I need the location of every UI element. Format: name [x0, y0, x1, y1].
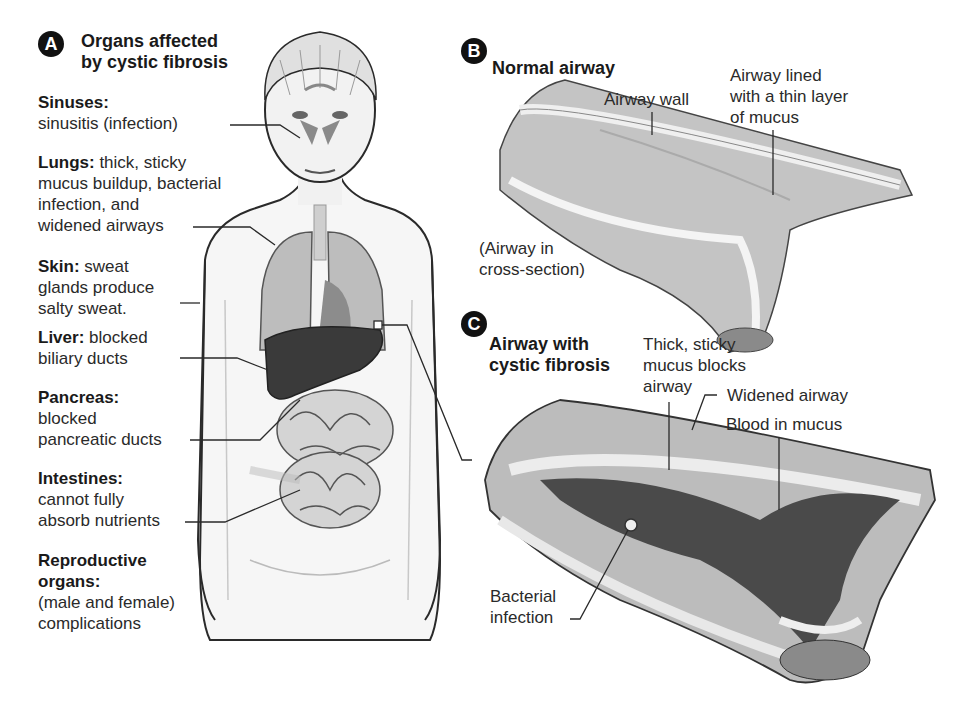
- organ-desc: complications: [38, 613, 208, 634]
- organ-desc: blocked: [38, 408, 162, 429]
- label-cross-section: (Airway in cross-section): [479, 238, 585, 280]
- label-line: Airway lined: [730, 65, 848, 86]
- label-line: infection: [490, 607, 556, 628]
- organ-desc: infection, and: [38, 194, 221, 215]
- organ-desc: absorb nutrients: [38, 510, 160, 531]
- organ-desc: (male and female): [38, 592, 208, 613]
- label-line: mucus blocks: [643, 355, 746, 376]
- organ-skin: Skin: sweat glands produce salty sweat.: [38, 256, 154, 319]
- organ-desc: sinusitis (infection): [38, 113, 178, 134]
- badge-a: A: [38, 31, 64, 57]
- organ-name: Pancreas:: [38, 388, 119, 407]
- panel-b-title: Normal airway: [492, 58, 615, 79]
- organ-name: Reproductive organs:: [38, 551, 147, 591]
- label-airway-wall: Airway wall: [604, 89, 689, 110]
- label-blood-in-mucus: Blood in mucus: [726, 414, 842, 435]
- label-line: Bacterial: [490, 586, 556, 607]
- organ-desc: salty sweat.: [38, 298, 154, 319]
- label-widened-airway: Widened airway: [727, 385, 848, 406]
- organ-desc: cannot fully: [38, 489, 160, 510]
- organ-desc: glands produce: [38, 277, 154, 298]
- organ-sinuses: Sinuses: sinusitis (infection): [38, 92, 178, 134]
- organ-desc: biliary ducts: [38, 348, 148, 369]
- organ-name: Liver:: [38, 328, 84, 347]
- organ-reproductive: Reproductive organs: (male and female) c…: [38, 550, 208, 634]
- panel-a-title-line2: by cystic fibrosis: [81, 52, 228, 73]
- organ-desc: blocked: [89, 328, 148, 347]
- organ-name: Intestines:: [38, 469, 123, 488]
- badge-b: B: [461, 38, 487, 64]
- label-line: cross-section): [479, 259, 585, 280]
- label-line: (Airway in: [479, 238, 585, 259]
- label-airway-lined: Airway lined with a thin layer of mucus: [730, 65, 848, 128]
- organ-desc: pancreatic ducts: [38, 429, 162, 450]
- organ-liver: Liver: blocked biliary ducts: [38, 327, 148, 369]
- label-line: of mucus: [730, 107, 848, 128]
- panel-c-title-line1: Airway with: [489, 334, 610, 355]
- organ-intestines: Intestines: cannot fully absorb nutrient…: [38, 468, 160, 531]
- label-bacterial-infection: Bacterial infection: [490, 586, 556, 628]
- organ-pancreas: Pancreas: blocked pancreatic ducts: [38, 387, 162, 450]
- cf-airway-illustration: [485, 395, 935, 683]
- organ-desc: mucus buildup, bacterial: [38, 173, 221, 194]
- normal-airway-illustration: [500, 80, 912, 352]
- organ-desc: thick, sticky: [99, 153, 186, 172]
- organ-lungs: Lungs: thick, sticky mucus buildup, bact…: [38, 152, 221, 236]
- panel-a-title: Organs affected by cystic fibrosis: [81, 31, 228, 73]
- panel-a-title-line1: Organs affected: [81, 31, 228, 52]
- badge-c: C: [461, 311, 487, 337]
- organ-desc: sweat: [84, 257, 128, 276]
- organ-name: Sinuses:: [38, 93, 109, 112]
- organ-name: Skin:: [38, 257, 80, 276]
- organ-desc: widened airways: [38, 215, 221, 236]
- organ-name: Lungs:: [38, 153, 95, 172]
- label-line: Thick, sticky: [643, 334, 746, 355]
- panel-c-title-line2: cystic fibrosis: [489, 355, 610, 376]
- label-line: with a thin layer: [730, 86, 848, 107]
- panel-c-title: Airway with cystic fibrosis: [489, 334, 610, 376]
